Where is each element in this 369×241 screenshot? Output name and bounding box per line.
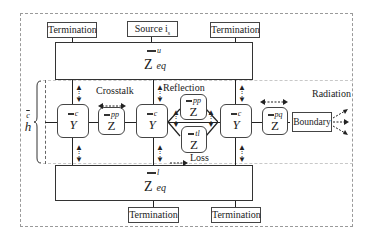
coupling-arrow-icon: ▲⋮▼ [238, 145, 246, 163]
crosstalk-arrow-icon [98, 96, 126, 104]
impedance-node-pq: pq Z [262, 107, 288, 135]
coupling-arrow-icon: ▲⋮▼ [75, 85, 83, 103]
bottom-termination-right: Termination [211, 207, 261, 223]
radiation-direction-arrow-icon [260, 92, 288, 100]
loss-label: Loss [190, 152, 209, 163]
impedance-node-pp-2: pp Z [180, 94, 207, 120]
loss-arrow-icon [170, 153, 188, 161]
admittance-node-3: c Y [220, 104, 252, 138]
lower-equivalent-impedance: l Z eq [55, 165, 253, 201]
reflection-arrow-icon: ▲⋮▼ [172, 110, 180, 128]
admittance-node-1: c Y [57, 104, 89, 138]
reflection-arrow-icon: ▲⋮▼ [207, 110, 215, 128]
radiation-arrows-icon [332, 108, 352, 136]
boundary-box: Boundary [292, 112, 332, 132]
coupling-arrow-icon: ▲⋮▼ [75, 145, 83, 163]
impedance-node-tl: tl Z [181, 126, 207, 153]
coupling-arrow-icon: ▲⋮▼ [156, 145, 164, 163]
top-termination-left: Termination [47, 22, 97, 38]
impedance-node-pp-1: pp Z [98, 107, 125, 135]
height-label: c h [22, 112, 34, 133]
coupling-arrow-icon: ▲⋮▼ [238, 85, 246, 103]
crosstalk-label: Crosstalk [96, 85, 134, 96]
radiation-label: Radiation [312, 88, 351, 99]
admittance-node-2: c Y [136, 104, 168, 138]
height-brace [34, 80, 42, 164]
source-box: Source is [127, 21, 178, 37]
top-termination-right: Termination [210, 22, 260, 38]
bottom-termination-left: Termination [128, 207, 179, 223]
upper-equivalent-impedance: u Z eq [55, 42, 253, 80]
reflection-label: Reflection [163, 82, 205, 93]
